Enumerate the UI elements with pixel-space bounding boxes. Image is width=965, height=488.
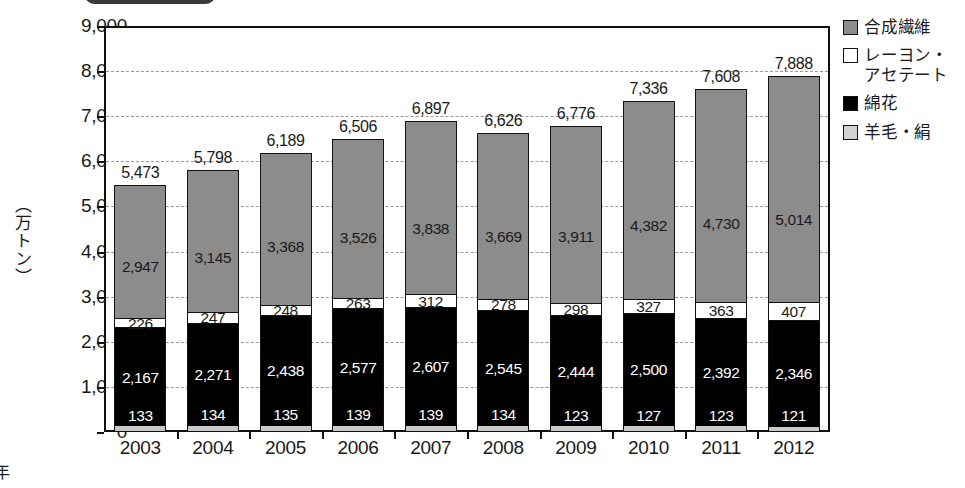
total-label: 5,473 [105, 164, 175, 182]
bar-2004[interactable]: 1342,2712473,1455,798 [187, 170, 239, 432]
value-label: 2,444 [550, 364, 602, 380]
value-label: 226 [114, 316, 166, 332]
value-label: 327 [623, 299, 675, 315]
legend-item-2[interactable]: 綿花 [843, 94, 965, 113]
value-label: 139 [332, 407, 384, 423]
bar-2006[interactable]: 1392,5772633,5266,506 [332, 139, 384, 432]
value-label: 134 [477, 407, 529, 423]
bar-2007[interactable]: 1392,6073123,8386,897 [405, 121, 457, 432]
value-label: 4,730 [695, 216, 747, 232]
legend-label-line1: レーヨン・ [864, 46, 948, 65]
value-label: 2,438 [260, 363, 312, 379]
bar-outline [260, 153, 312, 432]
bar-2008[interactable]: 1342,5452783,6696,626 [477, 133, 529, 432]
total-label: 6,897 [396, 100, 466, 118]
total-label: 6,776 [541, 105, 611, 123]
value-label: 3,911 [550, 229, 602, 245]
total-label: 6,506 [323, 118, 393, 136]
bar-outline [477, 133, 529, 432]
value-label: 3,838 [405, 221, 457, 237]
y-tick-mark [97, 342, 104, 344]
value-label: 127 [623, 408, 675, 424]
total-label: 7,336 [614, 80, 684, 98]
value-label: 363 [695, 303, 747, 319]
gray-swatch [843, 20, 858, 35]
y-tick-mark [97, 206, 104, 208]
bar-outline [114, 185, 166, 432]
x-axis-label-text: 年 [0, 463, 10, 482]
value-label: 247 [187, 310, 239, 326]
total-label: 5,798 [178, 149, 248, 167]
bar-outline [332, 139, 384, 432]
legend-label: レーヨン・アセテート [864, 46, 948, 85]
bar-outline [187, 170, 239, 432]
value-label: 133 [114, 408, 166, 424]
total-label: 7,888 [759, 55, 829, 73]
y-tick-mark [97, 161, 104, 163]
bar-2010[interactable]: 1272,5003274,3827,336 [623, 101, 675, 432]
legend-label: 合成繊維 [864, 18, 931, 37]
value-label: 248 [260, 303, 312, 319]
total-label: 7,608 [686, 68, 756, 86]
bar-2012[interactable]: 1212,3464075,0147,888 [768, 76, 820, 432]
bar-2003[interactable]: 1332,1672262,9475,473 [114, 185, 166, 432]
value-label: 2,607 [405, 359, 457, 375]
value-label: 2,167 [114, 370, 166, 386]
value-label: 263 [332, 296, 384, 312]
bar-outline [405, 121, 457, 432]
y-tick-mark [97, 297, 104, 299]
legend-item-3[interactable]: 羊毛・絹 [843, 123, 965, 142]
value-label: 123 [550, 408, 602, 424]
value-label: 2,545 [477, 361, 529, 377]
white-swatch [843, 48, 858, 63]
y-tick-mark [97, 252, 104, 254]
value-label: 407 [768, 304, 820, 320]
value-label: 2,346 [768, 366, 820, 382]
legend-item-0[interactable]: 合成繊維 [843, 18, 965, 37]
value-label: 3,368 [260, 239, 312, 255]
bar-outline [550, 126, 602, 432]
legend-label: 綿花 [864, 94, 898, 113]
y-tick-mark [97, 387, 104, 389]
value-label: 2,392 [695, 365, 747, 381]
value-label: 312 [405, 294, 457, 310]
bar-outline [623, 101, 675, 432]
value-label: 4,382 [623, 218, 675, 234]
value-label: 278 [477, 297, 529, 313]
legend: 合成繊維レーヨン・アセテート綿花羊毛・絹 [843, 18, 965, 151]
value-label: 134 [187, 407, 239, 423]
total-label: 6,626 [468, 112, 538, 130]
value-label: 2,947 [114, 259, 166, 275]
y-tick-mark [97, 432, 104, 434]
value-label: 3,145 [187, 250, 239, 266]
legend-label: 羊毛・絹 [864, 123, 931, 142]
value-label: 3,526 [332, 230, 384, 246]
total-label: 6,189 [251, 132, 321, 150]
light-gray-swatch [843, 125, 858, 140]
value-label: 121 [768, 408, 820, 424]
value-label: 2,500 [623, 362, 675, 378]
legend-item-1[interactable]: レーヨン・アセテート [843, 46, 965, 85]
value-label: 139 [405, 407, 457, 423]
value-label: 5,014 [768, 212, 820, 228]
x-tick-label-2012: 2012 [749, 437, 839, 459]
value-label: 3,669 [477, 229, 529, 245]
y-tick-mark [97, 26, 104, 28]
legend-label-line2: アセテート [864, 66, 948, 85]
value-label: 2,271 [187, 367, 239, 383]
bar-2005[interactable]: 1352,4382483,3686,189 [260, 153, 312, 432]
chart-root: （万トン） 9,0008,0007,0006,0005,0004,0003,00… [0, 0, 965, 488]
bar-2011[interactable]: 1232,3923634,7307,608 [695, 89, 747, 432]
value-label: 2,577 [332, 360, 384, 376]
x-axis-label: 年 [0, 458, 965, 483]
value-label: 135 [260, 407, 312, 423]
bar-2009[interactable]: 1232,4442983,9116,776 [550, 126, 602, 432]
y-tick-mark [97, 71, 104, 73]
black-swatch [843, 96, 858, 111]
y-tick-mark [97, 116, 104, 118]
value-label: 123 [695, 408, 747, 424]
value-label: 298 [550, 302, 602, 318]
